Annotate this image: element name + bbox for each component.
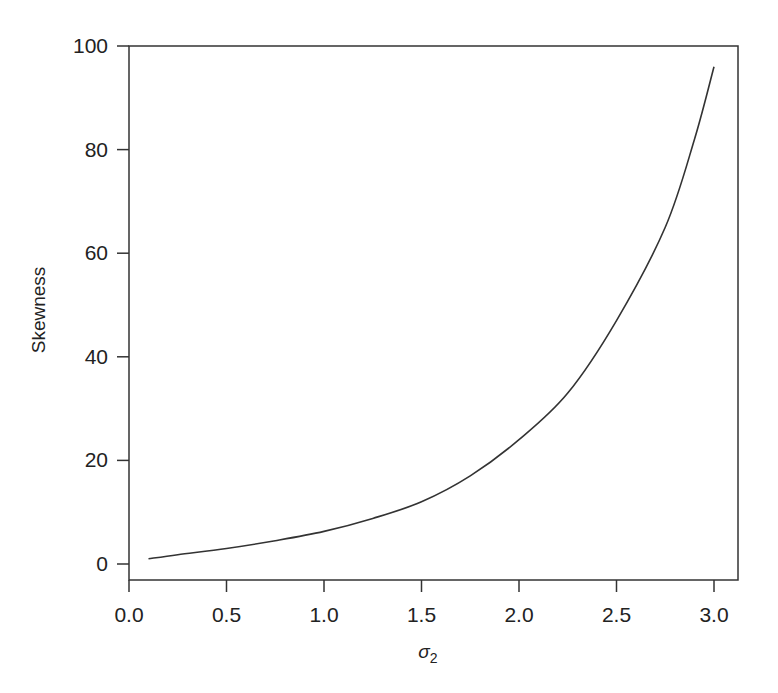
y-axis: 020406080100 [73, 34, 129, 575]
y-tick-label: 20 [85, 448, 108, 471]
x-tick-label: 1.5 [407, 603, 436, 626]
x-tick-label: 0.5 [212, 603, 241, 626]
chart: 020406080100 0.00.51.01.52.02.53.0 Skewn… [0, 0, 778, 693]
y-tick-label: 40 [85, 345, 108, 368]
x-tick-label: 1.0 [309, 603, 338, 626]
x-tick-label: 3.0 [699, 603, 728, 626]
x-tick-label: 2.0 [504, 603, 533, 626]
x-axis-title: σ2 [418, 641, 437, 666]
y-tick-label: 0 [96, 552, 108, 575]
x-tick-label: 2.5 [602, 603, 631, 626]
x-tick-label: 0.0 [114, 603, 143, 626]
y-tick-label: 100 [73, 34, 108, 57]
x-axis: 0.00.51.01.52.02.53.0 [114, 580, 728, 626]
y-tick-label: 60 [85, 241, 108, 264]
y-axis-title: Skewness [28, 267, 49, 354]
plot-frame [129, 46, 738, 580]
skewness-curve [149, 67, 715, 559]
y-tick-label: 80 [85, 138, 108, 161]
